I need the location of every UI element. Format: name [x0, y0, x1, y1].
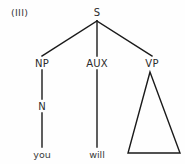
node-label-np: NP	[35, 58, 49, 69]
syntax-tree-figure: (III) S NP AUX VP N you will	[0, 0, 185, 164]
branch-s-to-np	[42, 21, 97, 56]
branch-s-to-vp	[97, 21, 152, 56]
terminal-label-will: will	[89, 149, 105, 160]
vp-triangle	[128, 72, 180, 153]
tree-diagram-svg	[0, 0, 185, 164]
node-label-vp: VP	[145, 58, 158, 69]
node-label-aux: AUX	[86, 58, 108, 69]
node-label-s: S	[94, 7, 101, 18]
terminal-label-you: you	[33, 149, 50, 160]
node-label-n: N	[38, 101, 46, 112]
